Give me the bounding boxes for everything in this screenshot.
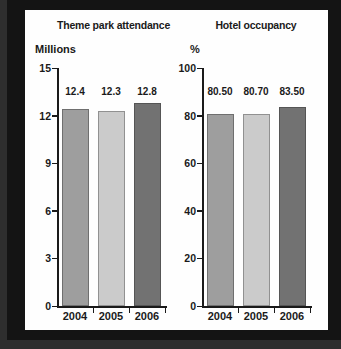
y-tick xyxy=(197,258,202,260)
y-axis-line xyxy=(57,68,59,308)
y-tick xyxy=(52,115,57,117)
y-tick-label: 9 xyxy=(26,157,51,169)
chart-theme-park-attendance: Theme park attendanceMillions0369121512.… xyxy=(25,10,170,330)
y-tick-label: 6 xyxy=(26,205,51,217)
y-tick xyxy=(52,163,57,165)
bar-value-label: 12.8 xyxy=(129,86,166,98)
y-tick-label: 100 xyxy=(171,62,196,74)
y-axis-line xyxy=(202,68,204,308)
bar-value-label: 80.70 xyxy=(238,86,275,98)
x-axis-line xyxy=(57,306,167,308)
page-edge-left xyxy=(0,0,7,349)
y-tick-label: 0 xyxy=(171,300,196,312)
page-edge-bottom xyxy=(0,340,341,349)
y-tick xyxy=(197,306,202,308)
bar-2006 xyxy=(279,107,306,306)
bar-value-label: 12.4 xyxy=(57,86,94,98)
y-tick xyxy=(197,210,202,212)
bar-2006 xyxy=(134,103,161,306)
y-tick xyxy=(197,163,202,165)
y-tick-label: 0 xyxy=(26,300,51,312)
y-tick xyxy=(197,68,202,70)
scanned-figure: { "page": { "background": "#141414", "ed… xyxy=(0,0,341,349)
chart-panel: Theme park attendanceMillions0369121512.… xyxy=(25,10,328,330)
y-axis-unit-label: % xyxy=(190,43,200,56)
category-label: 2006 xyxy=(129,310,165,323)
bar-value-label: 83.50 xyxy=(274,86,311,98)
y-tick xyxy=(52,210,57,212)
category-label: 2004 xyxy=(202,310,238,323)
bar-2004 xyxy=(62,109,89,306)
category-label: 2004 xyxy=(57,310,93,323)
y-tick-label: 80 xyxy=(171,110,196,122)
chart-title: Hotel occupancy xyxy=(202,18,310,32)
category-label: 2005 xyxy=(93,310,129,323)
y-tick-label: 15 xyxy=(26,62,51,74)
bar-2004 xyxy=(207,114,234,306)
x-axis-line xyxy=(202,306,312,308)
y-tick-label: 20 xyxy=(171,252,196,264)
y-tick xyxy=(52,258,57,260)
y-tick-label: 12 xyxy=(26,110,51,122)
bar-value-label: 12.3 xyxy=(93,86,130,98)
y-tick xyxy=(52,68,57,70)
y-tick xyxy=(52,306,57,308)
y-tick-label: 60 xyxy=(171,157,196,169)
bar-value-label: 80.50 xyxy=(202,86,239,98)
chart-hotel-occupancy: Hotel occupancy%02040608010080.50200480.… xyxy=(170,10,315,330)
category-label: 2005 xyxy=(238,310,274,323)
category-label: 2006 xyxy=(274,310,310,323)
y-tick-label: 3 xyxy=(26,252,51,264)
bar-2005 xyxy=(98,111,125,306)
y-axis-unit-label: Millions xyxy=(35,43,76,56)
y-tick xyxy=(197,115,202,117)
chart-title: Theme park attendance xyxy=(57,18,165,32)
bar-2005 xyxy=(243,114,270,306)
y-tick-label: 40 xyxy=(171,205,196,217)
